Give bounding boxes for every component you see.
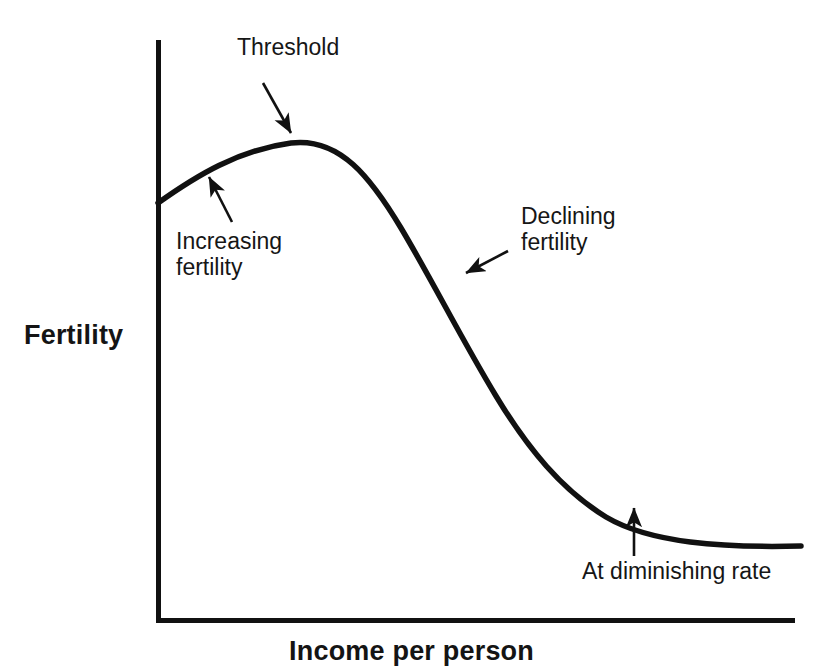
declining-fertility-arrow-icon: [466, 251, 508, 273]
increasing-fertility-arrow-icon: [209, 177, 232, 222]
fertility-income-figure: Fertility Income per person Threshold In…: [0, 0, 823, 670]
annotation-declining-line1: Declining: [521, 203, 616, 229]
threshold-arrow-icon: [263, 83, 291, 133]
annotation-increasing-line2: fertility: [176, 254, 282, 280]
annotation-threshold-line1: Threshold: [237, 34, 339, 60]
annotation-label-increasing-fertility: Increasing fertility: [176, 228, 282, 280]
annotation-diminishing-line1: At diminishing rate: [582, 558, 771, 584]
annotation-label-threshold: Threshold: [237, 34, 339, 60]
y-axis-title: Fertility: [24, 320, 123, 351]
x-axis-title: Income per person: [0, 636, 823, 667]
annotation-arrows: [209, 83, 634, 556]
axis-group: [156, 40, 795, 621]
annotation-label-declining-fertility: Declining fertility: [521, 203, 616, 255]
fertility-curve: [158, 142, 801, 546]
annotation-label-at-diminishing-rate: At diminishing rate: [582, 558, 771, 584]
annotation-increasing-line1: Increasing: [176, 228, 282, 254]
fertility-curve-group: [158, 142, 801, 546]
annotation-declining-line2: fertility: [521, 229, 616, 255]
